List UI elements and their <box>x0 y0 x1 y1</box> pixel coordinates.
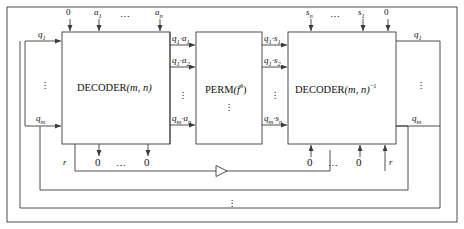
diagram-canvas: DECODER(m, n) PERM(fδ) DECODER(m, n)−1 0… <box>0 0 464 229</box>
signal-perm-decoderinv-n: qm·sn <box>264 114 282 125</box>
perm-box-label: PERM(fδ) <box>205 83 247 95</box>
bottom-output-left-0b: 0 <box>144 157 150 168</box>
top-input-right-s1: s1 <box>358 8 365 19</box>
bottom-input-right-r: r <box>389 158 393 167</box>
left-bus-ellipsis: ... <box>41 78 49 88</box>
top-input-left-a1: a1 <box>94 8 102 19</box>
decoder-inv-box-label: DECODER(m, n)−1 <box>295 83 377 95</box>
bottom-input-right-0a: 0 <box>307 157 313 168</box>
signal-decoder-perm-ellipsis: ... <box>179 88 187 98</box>
perm-box-ellipsis: ... <box>225 100 233 110</box>
bottom-output-left-0a: 0 <box>95 157 101 168</box>
right-bus-ellipsis: ... <box>417 78 425 88</box>
signal-perm-decoderinv-2: q1·s2 <box>264 56 281 67</box>
signal-decoder-perm-n: qm·an <box>172 114 191 125</box>
signal-decoder-perm-1: q1·a1 <box>172 34 190 45</box>
feedback-loop-ellipsis: ... <box>228 196 236 206</box>
left-bus-q1: q1 <box>38 30 46 41</box>
top-input-left-ellipsis: ⋯ <box>120 11 132 22</box>
top-input-right-ellipsis: ⋯ <box>330 11 342 22</box>
top-input-left-an: an <box>155 8 163 19</box>
decoder-box-label: DECODER(m, n) <box>77 83 152 94</box>
left-bus-qm: qm <box>36 114 45 125</box>
signal-decoder-perm-2: q1·a2 <box>172 56 190 67</box>
right-bus-q1: q1 <box>414 30 422 41</box>
right-bus-qm: qm <box>412 114 421 125</box>
top-input-right-sn: sn <box>306 8 313 19</box>
bottom-output-left-ellipsis: ⋯ <box>116 160 128 171</box>
bottom-input-right-ellipsis: ⋯ <box>328 160 340 171</box>
bottom-input-right-0b: 0 <box>356 157 362 168</box>
top-input-left-0: 0 <box>66 8 71 17</box>
signal-perm-decoderinv-1: q1·s1 <box>264 34 281 45</box>
top-input-right-0: 0 <box>384 8 389 17</box>
bottom-output-left-r: r <box>63 158 67 167</box>
signal-perm-decoderinv-ellipsis: ... <box>271 88 279 98</box>
